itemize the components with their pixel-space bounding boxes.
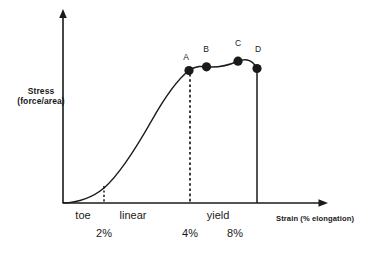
point-label-b: B <box>199 44 213 54</box>
x-axis <box>63 199 328 207</box>
pct-label-2: 2% <box>84 227 124 240</box>
region-label-yield: yield <box>190 209 246 222</box>
stress-strain-curve <box>63 60 257 203</box>
point-label-c: C <box>231 38 245 48</box>
y-axis-title: Stress(force/area) <box>4 86 78 106</box>
pct-label-8: 8% <box>215 227 255 240</box>
data-point-d <box>252 64 261 73</box>
data-point-b <box>202 62 211 71</box>
point-label-d: D <box>251 44 265 54</box>
point-label-a: A <box>179 52 193 62</box>
y-axis-title-line1: Stress <box>28 86 55 96</box>
region-label-toe: toe <box>55 209 111 222</box>
data-point-a <box>184 66 193 75</box>
data-point-c <box>233 57 242 66</box>
y-axis-title-line2: (force/area) <box>17 96 65 106</box>
stress-strain-diagram: Stress(force/area) Strain (% elongation)… <box>0 0 376 253</box>
pct-label-4: 4% <box>170 227 210 240</box>
region-label-linear: linear <box>105 209 161 222</box>
x-axis-title: Strain (% elongation) <box>276 215 354 224</box>
